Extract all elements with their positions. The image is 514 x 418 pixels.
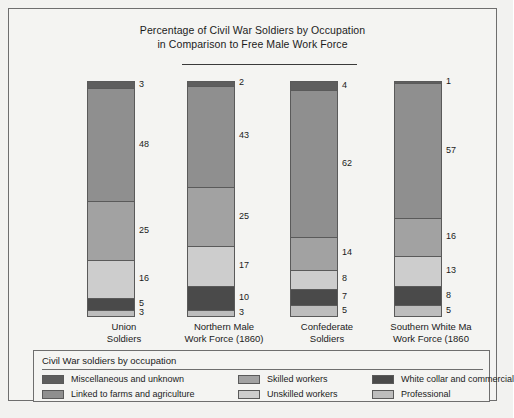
bar-segment-value: 16: [446, 232, 456, 241]
legend-label: Professional: [401, 388, 451, 401]
bar-segment[interactable]: [291, 91, 337, 237]
plot-area: 348251653UnionSoldiers2432517103Northern…: [17, 75, 514, 337]
chart-frame: Percentage of Civil War Soldiers by Occu…: [8, 8, 497, 401]
bar-segment-value: 43: [239, 131, 249, 140]
legend-swatch: [42, 390, 64, 399]
bar-segment-value: 3: [139, 80, 144, 89]
legend-label: Unskilled workers: [267, 388, 338, 401]
bar-segment-value: 5: [342, 306, 347, 315]
legend-label: Linked to farms and agriculture: [71, 388, 195, 401]
bar-group: 2432517103Northern MaleWork Force (1860): [165, 75, 283, 337]
bar-segment[interactable]: [188, 287, 234, 311]
category-label-line: Southern White Ma: [366, 321, 496, 333]
bar-segment-value: 5: [446, 306, 451, 315]
legend-swatch: [238, 375, 260, 384]
stacked-bar[interactable]: [87, 81, 135, 317]
legend-swatch: [238, 390, 260, 399]
bar-segment-value: 16: [139, 274, 149, 283]
chart-title-line-2: in Comparison to Free Male Work Force: [9, 37, 496, 51]
bar-segment-value: 2: [239, 78, 244, 87]
legend-title: Civil War soldiers by occupation: [42, 355, 176, 366]
bar-segment[interactable]: [188, 311, 234, 317]
bar-segment[interactable]: [395, 287, 441, 306]
stacked-bar[interactable]: [394, 81, 442, 317]
bar-segment-value: 62: [342, 159, 352, 168]
bar-segment[interactable]: [88, 299, 134, 311]
bar-group: 157161385Southern White MaWork Force (18…: [372, 75, 490, 337]
bar-segment-value: 25: [239, 212, 249, 221]
chart-legend: Civil War soldiers by occupation Miscell…: [33, 350, 490, 402]
bar-segment-value: 57: [446, 146, 456, 155]
bar-segment[interactable]: [188, 188, 234, 247]
bar-segment-value: 10: [239, 293, 249, 302]
bar-segment-value: 25: [139, 226, 149, 235]
legend-swatch: [42, 375, 64, 384]
category-label-line: Work Force (1860: [366, 333, 496, 345]
bar-segment[interactable]: [395, 219, 441, 257]
bar-segment[interactable]: [291, 290, 337, 307]
bar-segment[interactable]: [88, 311, 134, 317]
bar-segment[interactable]: [395, 306, 441, 317]
bar-group: 46214875ConfederateSoldiers: [268, 75, 386, 337]
bar-segment-value: 8: [446, 291, 451, 300]
chart-title-line-1: Percentage of Civil War Soldiers by Occu…: [9, 23, 496, 37]
bar-segment[interactable]: [395, 257, 441, 288]
category-label: Southern White MaWork Force (1860: [366, 321, 496, 345]
bar-segment[interactable]: [291, 82, 337, 91]
legend-swatch: [372, 375, 394, 384]
stacked-bar[interactable]: [187, 81, 235, 317]
bar-segment[interactable]: [88, 261, 134, 299]
bar-segment-value: 14: [342, 248, 352, 257]
bar-segment[interactable]: [291, 271, 337, 290]
bar-segment[interactable]: [88, 202, 134, 261]
bar-segment[interactable]: [395, 84, 441, 219]
bar-segment-value: 3: [139, 308, 144, 317]
bar-segment[interactable]: [188, 87, 234, 188]
bar-segment-value: 7: [342, 292, 347, 301]
title-underline: [182, 64, 357, 65]
bar-segment[interactable]: [188, 247, 234, 287]
bar-segment-value: 17: [239, 261, 249, 270]
legend-label: White collar and commercial: [401, 373, 514, 386]
legend-label: Skilled workers: [267, 373, 328, 386]
bar-segment[interactable]: [291, 306, 337, 317]
bar-segment-value: 13: [446, 266, 456, 275]
stacked-bar[interactable]: [290, 81, 338, 317]
legend-swatch: [372, 390, 394, 399]
bar-segment[interactable]: [88, 89, 134, 202]
bar-segment-value: 8: [342, 274, 347, 283]
bar-segment-value: 4: [342, 81, 347, 90]
chart-title: Percentage of Civil War Soldiers by Occu…: [9, 23, 496, 51]
legend-divider: [42, 369, 483, 370]
bar-segment-value: 1: [446, 77, 451, 86]
bar-segment[interactable]: [88, 82, 134, 89]
bar-segment[interactable]: [291, 238, 337, 271]
legend-label: Miscellaneous and unknown: [71, 373, 184, 386]
bar-segment-value: 3: [239, 308, 244, 317]
bar-segment-value: 48: [139, 140, 149, 149]
